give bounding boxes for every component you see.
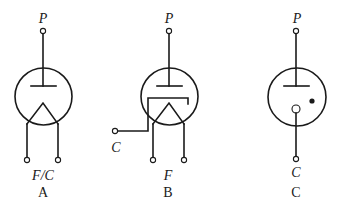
tube-b-filament-terminal-right-icon: [181, 157, 186, 162]
tube-b-cathode-terminal-icon: [112, 128, 117, 133]
tube-c-plate-label: P: [292, 11, 302, 26]
tube-c-envelope-icon: [268, 68, 326, 126]
tube-c-plate-terminal-icon: [293, 28, 298, 33]
tube-b-filament-terminal-left-icon: [150, 157, 155, 162]
tube-b-plate-terminal-icon: [166, 28, 171, 33]
tube-a-filament-terminal-left-icon: [24, 157, 29, 162]
tube-c: P C C: [268, 11, 326, 200]
tube-c-cathode-label: C: [291, 165, 301, 180]
tube-a-filament-icon: [27, 103, 58, 124]
tube-b-filament-icon: [153, 103, 184, 124]
tube-b: P C F B: [111, 11, 198, 200]
tube-b-plate-label: P: [164, 11, 174, 26]
tube-c-cold-cathode-icon: [292, 105, 300, 113]
tube-c-cathode-terminal-icon: [293, 156, 298, 161]
tube-c-gas-dot-icon: [309, 98, 314, 103]
tube-symbols-diagram: P F/C A P C F B P: [0, 0, 342, 206]
tube-a-filament-terminal-right-icon: [55, 157, 60, 162]
tube-b-caption: B: [163, 185, 172, 200]
tube-a-filament-label: F/C: [31, 168, 54, 183]
tube-a-plate-label: P: [38, 11, 48, 26]
tube-a-plate-terminal-icon: [40, 28, 45, 33]
tube-a-caption: A: [38, 185, 49, 200]
tube-b-cathode-label: C: [111, 140, 121, 155]
tube-a: P F/C A: [15, 11, 72, 200]
tube-b-filament-label: F: [163, 168, 173, 183]
tube-c-caption: C: [291, 185, 300, 200]
